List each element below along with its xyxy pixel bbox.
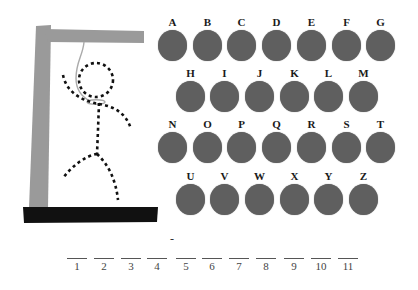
figure-left-leg [63, 154, 97, 178]
slot-char [228, 245, 250, 257]
word-slot-7: 7 [228, 245, 250, 269]
letter-label: N [158, 119, 187, 130]
letter-button-s[interactable]: S [332, 119, 361, 163]
letter-disc[interactable] [245, 184, 274, 215]
slot-underline [94, 258, 114, 259]
letter-label: S [332, 119, 361, 130]
letter-disc[interactable] [314, 81, 343, 112]
letter-label: J [245, 68, 274, 79]
letter-button-a[interactable]: A [158, 17, 187, 61]
letter-button-v[interactable]: V [210, 171, 239, 215]
gallows-icon [23, 25, 158, 223]
letter-label: P [227, 119, 256, 130]
letter-disc[interactable] [332, 132, 361, 163]
figure-head [79, 63, 113, 97]
letter-label: Z [349, 171, 378, 182]
letter-button-e[interactable]: E [297, 17, 326, 61]
letter-label: K [280, 68, 309, 79]
slot-char [93, 245, 115, 257]
slot-underline [147, 258, 167, 259]
letter-disc[interactable] [210, 81, 239, 112]
letter-label: I [210, 68, 239, 79]
letter-button-n[interactable]: N [158, 119, 187, 163]
figure-right-arm [99, 104, 131, 129]
hangman-drawing [0, 0, 170, 230]
slot-number: 6 [201, 261, 223, 272]
letter-label: D [262, 17, 291, 28]
letter-disc[interactable] [176, 184, 205, 215]
letter-button-q[interactable]: Q [262, 119, 291, 163]
slot-underline [121, 258, 141, 259]
figure-right-leg [97, 154, 118, 200]
letter-label: H [176, 68, 205, 79]
letter-disc[interactable] [297, 132, 326, 163]
letter-disc[interactable] [366, 132, 395, 163]
letter-disc[interactable] [366, 30, 395, 61]
letter-disc[interactable] [349, 81, 378, 112]
letter-button-b[interactable]: B [193, 17, 222, 61]
letter-button-x[interactable]: X [280, 171, 309, 215]
letter-label: C [227, 17, 256, 28]
slot-underline [229, 258, 249, 259]
rope-icon [76, 42, 90, 101]
word-slot-10: 10 [310, 245, 332, 269]
slot-number: 9 [283, 261, 305, 272]
letter-label: B [193, 17, 222, 28]
letter-button-k[interactable]: K [280, 68, 309, 112]
letter-button-w[interactable]: W [245, 171, 274, 215]
slot-char [337, 245, 359, 257]
slot-char [201, 245, 223, 257]
letter-label: G [366, 17, 395, 28]
letter-disc[interactable] [158, 132, 187, 163]
letter-button-i[interactable]: I [210, 68, 239, 112]
letter-disc[interactable] [176, 81, 205, 112]
slot-number: 8 [255, 261, 277, 272]
letter-button-o[interactable]: O [193, 119, 222, 163]
letter-disc[interactable] [262, 132, 291, 163]
letter-disc[interactable] [349, 184, 378, 215]
letter-button-z[interactable]: Z [349, 171, 378, 215]
letter-button-f[interactable]: F [332, 17, 361, 61]
letter-button-j[interactable]: J [245, 68, 274, 112]
word-slot-8: 8 [255, 245, 277, 269]
letter-button-h[interactable]: H [176, 68, 205, 112]
slot-char [175, 245, 197, 257]
letter-disc[interactable] [227, 132, 256, 163]
letter-button-p[interactable]: P [227, 119, 256, 163]
letter-button-y[interactable]: Y [314, 171, 343, 215]
letter-button-t[interactable]: T [366, 119, 395, 163]
letter-disc[interactable] [280, 81, 309, 112]
letter-button-m[interactable]: M [349, 68, 378, 112]
letter-button-c[interactable]: C [227, 17, 256, 61]
letter-disc[interactable] [314, 184, 343, 215]
letter-label: Y [314, 171, 343, 182]
letter-disc[interactable] [158, 30, 187, 61]
letter-disc[interactable] [280, 184, 309, 215]
slot-number: 3 [120, 261, 142, 272]
letter-disc[interactable] [227, 30, 256, 61]
gallows-beam [44, 29, 144, 43]
letter-label: O [193, 119, 222, 130]
letter-button-l[interactable]: L [314, 68, 343, 112]
slot-char [66, 245, 88, 257]
letter-disc[interactable] [245, 81, 274, 112]
letter-button-u[interactable]: U [176, 171, 205, 215]
letter-disc[interactable] [332, 30, 361, 61]
letter-button-r[interactable]: R [297, 119, 326, 163]
letter-disc[interactable] [262, 30, 291, 61]
slot-underline [256, 258, 276, 259]
letter-disc[interactable] [297, 30, 326, 61]
letter-disc[interactable] [193, 132, 222, 163]
slot-number: 7 [228, 261, 250, 272]
word-slot-11: 11 [337, 245, 359, 269]
letter-disc[interactable] [210, 184, 239, 215]
slot-number: 2 [93, 261, 115, 272]
letter-button-g[interactable]: G [366, 17, 395, 61]
letter-label: T [366, 119, 395, 130]
word-slot-1: 1 [66, 245, 88, 269]
letter-disc[interactable] [193, 30, 222, 61]
slot-char [255, 245, 277, 257]
letter-button-d[interactable]: D [262, 17, 291, 61]
slot-underline [176, 258, 196, 259]
word-slot-2: 2 [93, 245, 115, 269]
